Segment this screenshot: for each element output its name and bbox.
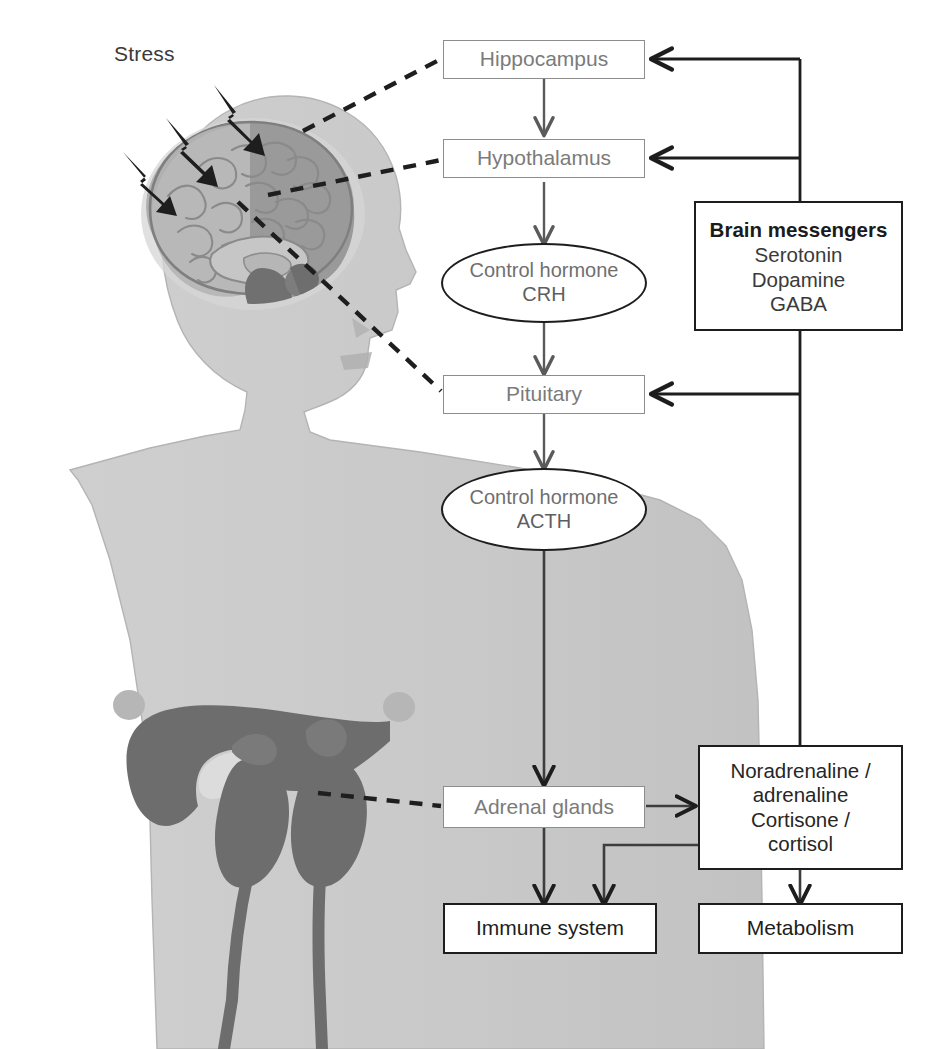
- hormone-line-2: adrenaline: [753, 783, 849, 807]
- node-metabolism[interactable]: Metabolism: [698, 903, 903, 954]
- node-control-hormone-crh[interactable]: Control hormone CRH: [441, 243, 647, 323]
- node-pituitary-label: Pituitary: [506, 382, 582, 407]
- brain-messengers-title: Brain messengers: [710, 218, 888, 242]
- stress-label: Stress: [114, 42, 175, 66]
- node-adrenal-glands-label: Adrenal glands: [474, 795, 614, 820]
- node-hypothalamus[interactable]: Hypothalamus: [443, 139, 645, 178]
- node-brain-messengers[interactable]: Brain messengers Serotonin Dopamine GABA: [694, 201, 903, 331]
- node-hypothalamus-label: Hypothalamus: [477, 146, 611, 171]
- arrow-hormones-to-immune: [604, 845, 698, 903]
- node-metabolism-label: Metabolism: [747, 916, 854, 941]
- crh-line2: CRH: [522, 283, 565, 307]
- node-immune-system[interactable]: Immune system: [443, 903, 657, 954]
- acth-line1: Control hormone: [470, 486, 619, 510]
- hormone-line-3: Cortisone /: [751, 808, 850, 832]
- brain-messenger-gaba: GABA: [770, 292, 827, 316]
- diagram-canvas: Stress Hippocampus Hypothalamus Control …: [0, 0, 950, 1049]
- hormone-line-4: cortisol: [768, 832, 833, 856]
- node-immune-system-label: Immune system: [476, 916, 624, 941]
- acth-line2: ACTH: [517, 510, 571, 534]
- crh-line1: Control hormone: [470, 259, 619, 283]
- node-pituitary[interactable]: Pituitary: [443, 375, 645, 414]
- node-control-hormone-acth[interactable]: Control hormone ACTH: [441, 468, 647, 551]
- brain-messenger-dopamine: Dopamine: [752, 268, 845, 292]
- node-hippocampus-label: Hippocampus: [480, 47, 608, 72]
- node-adrenal-glands[interactable]: Adrenal glands: [443, 786, 645, 828]
- node-hippocampus[interactable]: Hippocampus: [443, 40, 645, 79]
- hormone-line-1: Noradrenaline /: [730, 759, 870, 783]
- brain-messenger-serotonin: Serotonin: [755, 243, 843, 267]
- node-stress-hormones[interactable]: Noradrenaline / adrenaline Cortisone / c…: [698, 745, 903, 870]
